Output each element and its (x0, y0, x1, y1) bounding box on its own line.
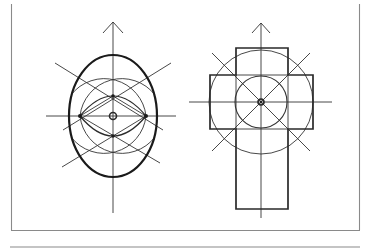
chord-1 (80, 96, 113, 116)
chord-2 (113, 96, 146, 116)
diagram-canvas (0, 0, 374, 248)
inner-point-top (111, 94, 115, 98)
center-point (260, 101, 262, 103)
lens-point-left (78, 114, 82, 118)
lens-point-right (144, 114, 148, 118)
cross-plan-diagram (189, 23, 332, 218)
diagonal-line-4 (80, 116, 160, 163)
construction-arc-1 (80, 79, 155, 116)
oval-construction-diagram (46, 22, 176, 213)
inner-point-bottom (111, 134, 115, 138)
construction-arc-2 (71, 79, 146, 116)
construction-arc-3 (80, 116, 155, 153)
